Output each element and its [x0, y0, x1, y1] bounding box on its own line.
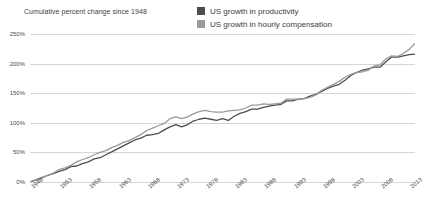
legend-label-productivity: US growth in productivity: [210, 7, 298, 16]
y-axis-tick-label: 50%: [13, 149, 25, 155]
chart-container: Cumulative percent change since 1948 US …: [0, 0, 424, 210]
series-line-productivity: [30, 54, 415, 182]
x-axis: 1948195319581963196819731978198319881993…: [30, 183, 415, 209]
y-axis-tick-label: 150%: [10, 90, 25, 96]
page-title: Cumulative percent change since 1948: [24, 8, 147, 15]
legend-swatch-productivity-icon: [197, 7, 205, 15]
plot-area: [30, 34, 415, 182]
legend-swatch-compensation-icon: [197, 20, 205, 28]
y-axis: 0%50%100%150%200%250%: [0, 34, 28, 182]
legend-item-productivity[interactable]: US growth in productivity: [197, 6, 332, 16]
series-lines: [30, 34, 415, 182]
legend-item-compensation[interactable]: US growth in hourly compensation: [197, 19, 332, 29]
y-axis-tick-label: 250%: [10, 31, 25, 37]
series-line-compensation: [30, 43, 415, 182]
chart-legend: US growth in productivity US growth in h…: [197, 6, 332, 29]
y-axis-tick-label: 0%: [16, 179, 25, 185]
y-axis-tick-label: 100%: [10, 120, 25, 126]
legend-label-compensation: US growth in hourly compensation: [210, 20, 332, 29]
y-axis-tick-label: 200%: [10, 61, 25, 67]
